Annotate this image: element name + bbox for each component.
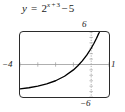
- equation-equals: =: [30, 2, 38, 14]
- equation-minus: −: [60, 2, 68, 14]
- y-axis-max-label: 6: [82, 20, 87, 29]
- x-axis-min-label: −4: [2, 60, 13, 69]
- exponential-curve: [20, 32, 102, 89]
- plot-frame: [19, 31, 110, 98]
- figure-container: y = 2x+3−5 −4 1 6 −6: [0, 0, 125, 112]
- x-axis-max-label: 1: [111, 60, 116, 69]
- y-axis-min-label: −6: [80, 99, 91, 108]
- plot-canvas: [20, 32, 109, 97]
- equation-constant: 5: [69, 2, 75, 14]
- equation-caption: y = 2x+3−5: [22, 2, 74, 14]
- equation-exponent: x+3: [47, 1, 60, 9]
- x-axis: [20, 62, 109, 66]
- equation-lhs: y: [22, 2, 27, 14]
